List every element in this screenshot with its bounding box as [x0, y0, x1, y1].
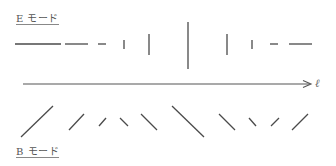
b-segment-nw-long	[172, 106, 204, 137]
b-segment-nw-short	[249, 118, 256, 126]
polarization-diagram	[0, 0, 336, 166]
b-mode-pattern	[21, 106, 308, 137]
b-segment-nw-medium	[141, 114, 157, 130]
b-segment-ne-long	[21, 106, 53, 137]
b-segment-nw-short	[120, 118, 128, 126]
ell-axis-label: ℓ	[315, 77, 320, 90]
b-segment-nw-medium	[219, 114, 235, 130]
b-mode-label: B モード	[16, 143, 59, 158]
e-mode-pattern	[15, 22, 312, 69]
b-segment-ne-short	[271, 118, 279, 126]
b-segment-ne-short	[99, 118, 106, 126]
b-segment-ne-medium	[292, 114, 308, 130]
b-segment-ne-medium	[69, 114, 84, 130]
ell-axis	[23, 81, 311, 88]
